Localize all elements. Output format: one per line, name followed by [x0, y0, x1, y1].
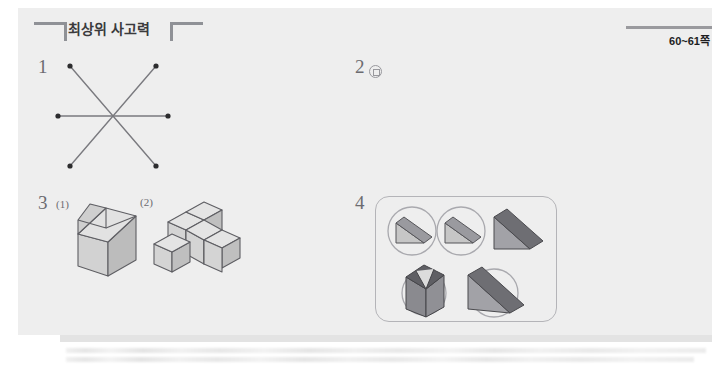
figure-beveled-cube-solid	[60, 198, 152, 278]
page-header: 최상위 사고력 60~61쪽	[18, 8, 712, 48]
bottom-separator-bar	[60, 335, 712, 342]
folded-v-solid	[406, 265, 444, 317]
problem-number-3: 3	[38, 192, 48, 214]
blurred-text-line	[66, 348, 706, 353]
wedge-solid-5	[468, 267, 524, 313]
bracket-right-icon	[170, 22, 203, 41]
wedge-solid-3	[494, 209, 543, 249]
wedge-solid-2	[445, 217, 481, 243]
worksheet-page: 최상위 사고력 60~61쪽 1 2 3 (1)	[18, 8, 712, 335]
page-title: 최상위 사고력	[68, 18, 150, 38]
figure-staircase-cube-solid	[146, 196, 256, 278]
problem-number-4: 4	[355, 192, 365, 214]
wedge-solid-1	[396, 217, 432, 243]
figure-three-lines-through-point	[48, 54, 178, 179]
problem-number-2: 2	[355, 56, 365, 78]
figure-wedge-solids-panel	[375, 196, 557, 322]
bracket-left-icon	[34, 22, 67, 41]
page-number-rule	[626, 26, 712, 29]
page-number-label: 60~61쪽	[669, 32, 710, 48]
page-bottom-overflow	[18, 335, 712, 365]
wedge-solids-svg	[376, 197, 558, 323]
circled-square-icon	[369, 65, 382, 78]
problem-number-1: 1	[38, 56, 48, 78]
blurred-text-line	[66, 357, 694, 362]
